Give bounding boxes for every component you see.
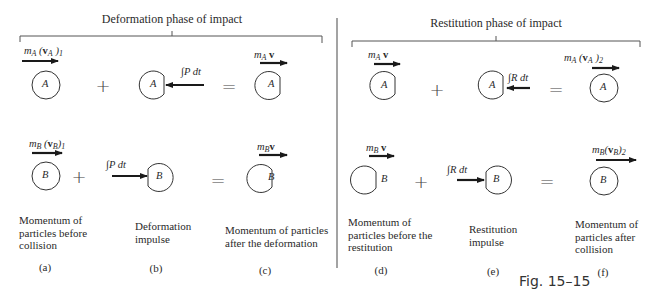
label-ma-v-res: mA v [368, 49, 388, 62]
plus-operator: + [429, 79, 444, 100]
label-mb-vb1: mB (vB)1 [29, 138, 65, 151]
equals-operator: = [548, 79, 563, 100]
particle-letter: A [489, 79, 495, 90]
particle-letter: B [268, 171, 274, 182]
particle-b-before-restitution [351, 166, 376, 194]
particle-letter: B [42, 169, 48, 180]
caption-d: Momentum of particles before the restitu… [348, 216, 432, 254]
label-ma-va1: mA (vA )1 [24, 45, 63, 58]
plus-operator: + [71, 166, 86, 187]
equals-operator: = [539, 171, 554, 192]
plus-operator: + [413, 171, 428, 192]
particle-letter: A [268, 78, 274, 89]
particle-letter: B [156, 170, 162, 181]
caption-a: Momentum of particles before collision [19, 214, 87, 252]
label-impulse-p-a: ∫P dt [181, 66, 201, 77]
label-impulse-p-b: ∫P dt [106, 159, 126, 170]
deformation-phase-title: Deformation phase of impact [102, 12, 242, 27]
restitution-phase-title: Restitution phase of impact [430, 16, 562, 31]
label-ma-va2: mA (vA )2 [564, 52, 603, 65]
label-mb-v-res: mB v [366, 142, 386, 155]
particle-letter: A [381, 79, 387, 90]
particle-letter: B [600, 174, 606, 185]
subfigure-tag-a: (a) [39, 261, 51, 273]
particle-letter: B [493, 173, 499, 184]
label-mb-v-def: mBv [257, 141, 275, 154]
equals-operator: = [221, 76, 236, 97]
label-mb-vb2: mB(vB)2 [592, 144, 626, 157]
caption-f: Momentum of particles after collision [575, 218, 638, 256]
subfigure-tag-b: (b) [150, 262, 163, 274]
particle-letter: A [42, 78, 48, 89]
label-impulse-r-a: ∫R dt [508, 72, 528, 83]
plus-operator: + [95, 75, 110, 96]
deformation-bracket [20, 36, 322, 43]
subfigure-tag-e: (e) [487, 265, 499, 277]
caption-e: Restitution impulse [469, 223, 517, 248]
caption-c: Momentum of particles after the deformat… [225, 224, 328, 249]
subfigure-tag-f: (f) [598, 266, 609, 278]
subfigure-tag-d: (d) [375, 264, 388, 276]
particle-letter: B [381, 173, 387, 184]
label-ma-v-def: mA v [254, 49, 274, 62]
restitution-bracket [352, 41, 640, 47]
caption-b: Deformation impulse [135, 220, 191, 245]
equals-operator: = [210, 170, 225, 191]
particle-letter: A [150, 78, 156, 89]
figure-caption: Fig. 15–15 [519, 273, 590, 289]
particle-letter: A [600, 81, 606, 92]
label-impulse-r-b: ∫R dt [447, 164, 467, 175]
subfigure-tag-c: (c) [259, 264, 271, 276]
